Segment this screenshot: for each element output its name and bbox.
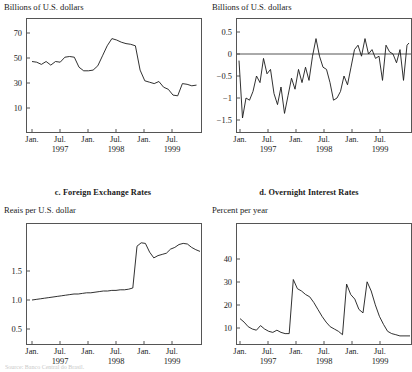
panel-d-ytick-40: 40 <box>206 255 232 264</box>
panel-c-xtick-0: Jan. <box>25 347 38 357</box>
panel-d-data-line <box>240 280 410 336</box>
panel-a-xtick-2: Jan. <box>81 135 94 145</box>
panel-c-data-line <box>32 243 200 300</box>
panel-b-x-tick-labels: Jan. Jul.1997 Jan. Jul.1998 Jan. Jul.199… <box>236 135 412 161</box>
panel-c-units-label: Reais per U.S. dollar <box>4 205 76 216</box>
panel-d-ytick-30: 30 <box>206 278 232 287</box>
panel-d-overnight-interest-rates: d. Overnight Interest Rates Percent per … <box>206 186 412 372</box>
panel-d-xtick-4: Jan. <box>345 347 358 357</box>
panel-c-title: c. Foreign Exchange Rates <box>0 187 206 198</box>
panel-b-ytick-0-5: 0.5 <box>206 28 232 37</box>
panel-d-plot-svg <box>236 223 412 345</box>
panel-d-xtick-0: Jan. <box>233 347 246 357</box>
panel-c-xtick-4: Jan. <box>137 347 150 357</box>
panel-b-trade-balance: Billions of U.S. dollars 0.5 0 −0.5 −1 −… <box>206 0 412 186</box>
panel-c-plot <box>26 223 202 345</box>
panel-a-ytick-50: 50 <box>0 54 22 63</box>
panel-d-units-label: Percent per year <box>212 205 268 216</box>
panel-c-plot-frame <box>27 224 202 345</box>
panel-a-international-reserves: Billions of U.S. dollars 70 50 30 10 <box>0 0 206 186</box>
panel-b-xtick-1: Jul.1997 <box>260 135 277 155</box>
panel-b-plot-svg <box>236 18 412 133</box>
panel-a-plot-svg <box>26 18 202 133</box>
panel-d-title: d. Overnight Interest Rates <box>206 187 412 198</box>
panel-c-ytick-1-0: 1.0 <box>0 296 22 305</box>
panel-d-xtick-2: Jan. <box>289 347 302 357</box>
panel-a-ytick-10: 10 <box>0 104 22 113</box>
panel-d-plot <box>236 223 412 345</box>
panel-b-ytick-neg-1-5: −1.5 <box>206 116 232 125</box>
panel-c-ytick-0-5: 0.5 <box>0 325 22 334</box>
panel-c-xtick-2: Jan. <box>81 347 94 357</box>
panel-d-ytick-20: 20 <box>206 301 232 310</box>
panel-b-xtick-0: Jan. <box>233 135 246 145</box>
panel-b-ytick-neg-1: −1 <box>206 94 232 103</box>
figure-page: Billions of U.S. dollars 70 50 30 10 <box>0 0 412 372</box>
panel-b-xtick-4: Jan. <box>345 135 358 145</box>
panel-a-units-label: Billions of U.S. dollars <box>4 2 84 13</box>
panel-b-plot <box>236 18 412 133</box>
panel-a-xtick-3: Jul.1998 <box>108 135 125 155</box>
panel-d-plot-frame <box>237 224 412 345</box>
panel-a-xtick-5: Jul.1999 <box>164 135 181 155</box>
panel-a-ytick-30: 30 <box>0 79 22 88</box>
panel-c-ytick-1-5: 1.5 <box>0 267 22 276</box>
panel-c-plot-svg <box>26 223 202 345</box>
panel-a-xtick-1: Jul.1997 <box>52 135 69 155</box>
panel-b-ytick-neg-0-5: −0.5 <box>206 72 232 81</box>
panel-a-plot-frame <box>27 19 202 133</box>
panel-b-plot-frame <box>237 19 412 133</box>
panel-c-foreign-exchange-rates: c. Foreign Exchange Rates Reais per U.S.… <box>0 186 206 372</box>
panel-a-xtick-0: Jan. <box>25 135 38 145</box>
panel-b-xtick-2: Jan. <box>289 135 302 145</box>
panel-b-xtick-5: Jul.1999 <box>372 135 389 155</box>
panel-b-ytick-0: 0 <box>206 50 232 59</box>
panel-a-xtick-4: Jan. <box>137 135 150 145</box>
figure-footnote: Source: Banco Central do Brasil. <box>5 364 405 371</box>
panel-a-data-line <box>32 39 197 96</box>
panel-d-ytick-10: 10 <box>206 324 232 333</box>
panel-a-ytick-70: 70 <box>0 29 22 38</box>
panel-a-x-tick-labels: Jan. Jul.1997 Jan. Jul.1998 Jan. Jul.199… <box>26 135 202 161</box>
panel-b-units-label: Billions of U.S. dollars <box>212 2 292 13</box>
panel-a-plot <box>26 18 202 133</box>
panel-b-data-line <box>239 39 409 118</box>
panel-b-xtick-3: Jul.1998 <box>316 135 333 155</box>
